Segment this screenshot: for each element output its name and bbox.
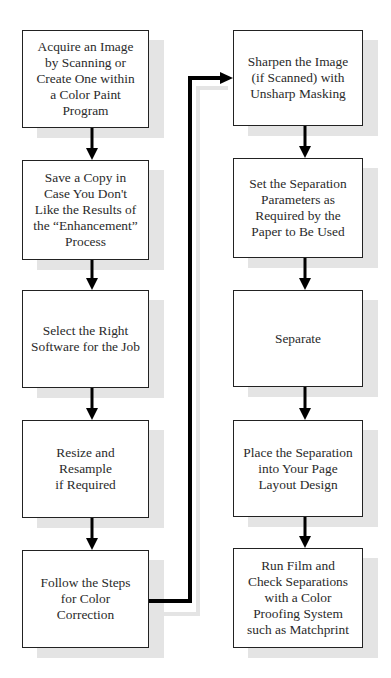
step-box-run-film: Run Film and Check Separations with a Co… xyxy=(233,548,363,648)
step-label: Separate xyxy=(275,331,321,347)
step-box-separate: Separate xyxy=(233,290,363,387)
step-label: Place the Separation into Your Page Layo… xyxy=(243,445,352,493)
step-label: Run Film and Check Separations with a Co… xyxy=(247,558,349,638)
step-box-select-software: Select the Right Software for the Job xyxy=(22,290,149,388)
step-box-color-correction: Follow the Steps for Color Correction xyxy=(22,550,149,648)
step-box-separation-parameters: Set the Separation Parameters as Require… xyxy=(233,158,363,258)
step-label: Sharpen the Image (if Scanned) with Unsh… xyxy=(248,54,348,102)
flowchart-canvas: Acquire an Image by Scanning or Create O… xyxy=(0,0,391,678)
step-label: Follow the Steps for Color Correction xyxy=(40,575,130,623)
step-box-place-separation: Place the Separation into Your Page Layo… xyxy=(233,420,363,517)
step-box-resize-resample: Resize and Resample if Required xyxy=(22,420,149,518)
step-label: Select the Right Software for the Job xyxy=(31,323,140,355)
step-box-acquire-image: Acquire an Image by Scanning or Create O… xyxy=(22,30,149,128)
step-label: Resize and Resample if Required xyxy=(29,445,142,493)
step-box-sharpen-image: Sharpen the Image (if Scanned) with Unsh… xyxy=(233,30,363,126)
step-box-save-copy: Save a Copy in Case You Don't Like the R… xyxy=(22,160,149,260)
step-label: Acquire an Image by Scanning or Create O… xyxy=(36,39,134,119)
step-label: Save a Copy in Case You Don't Like the R… xyxy=(33,170,137,250)
step-label: Set the Separation Parameters as Require… xyxy=(249,176,346,240)
